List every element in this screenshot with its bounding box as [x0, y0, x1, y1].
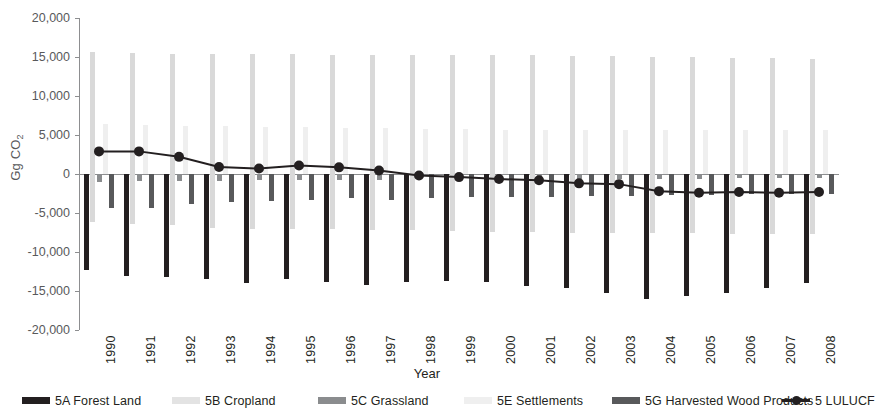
x-axis-tick-label-1991: 1991: [144, 335, 158, 364]
bar-cropland-1994: [250, 54, 255, 174]
bar-group-2006: [719, 18, 759, 330]
bar-settlements-2003: [623, 130, 628, 174]
x-axis-title: Year: [0, 366, 854, 381]
y-axis-tick-label: -20,000: [10, 323, 70, 337]
x-axis-tick-label-1993: 1993: [224, 335, 238, 364]
bar-group-1997: [359, 18, 399, 330]
bar-forest_land-1994: [244, 174, 249, 283]
chart-legend: 5A Forest Land5B Cropland5C Grassland5E …: [0, 390, 854, 411]
legend-item-2[interactable]: 5C Grassland: [318, 390, 429, 411]
bar-cropland-1999: [450, 55, 455, 174]
y-axis-tick-labels: 20,00015,00010,0005,0000-5,000-10,000-15…: [8, 0, 70, 411]
x-axis-tick-label-2008: 2008: [824, 335, 838, 364]
bar-settlements-1996: [343, 128, 348, 174]
x-axis-tick-label-2002: 2002: [584, 335, 598, 364]
bar-cropland-negative-2008: [810, 174, 815, 234]
x-axis-tick-label-2004: 2004: [664, 335, 678, 364]
bar-cropland-negative-2000: [490, 174, 495, 232]
legend-color-swatch-icon: [612, 397, 640, 404]
y-axis-tick-label: 5,000: [10, 128, 70, 142]
bar-cropland-2002: [570, 56, 575, 174]
bar-group-1993: [199, 18, 239, 330]
bar-cropland-1990: [90, 52, 95, 174]
bar-cropland-1997: [370, 55, 375, 174]
bar-cropland-1996: [330, 55, 335, 174]
bar-cropland-2000: [490, 55, 495, 174]
legend-item-1[interactable]: 5B Cropland: [172, 390, 276, 411]
legend-color-swatch-icon: [22, 397, 50, 404]
x-axis-tick-label-1999: 1999: [464, 335, 478, 364]
bar-group-2001: [519, 18, 559, 330]
bar-grassland-2004: [657, 174, 662, 179]
bar-settlements-1995: [303, 127, 308, 174]
bar-cropland-negative-2003: [610, 174, 615, 233]
bar-harvested_wood-1999: [469, 174, 474, 197]
y-axis-tick-label: -15,000: [10, 284, 70, 298]
x-axis-tick-label-1994: 1994: [264, 335, 278, 364]
bar-cropland-1995: [290, 54, 295, 174]
bar-cropland-negative-2007: [770, 174, 775, 234]
bar-group-1992: [159, 18, 199, 330]
bar-cropland-2003: [610, 56, 615, 174]
bar-group-2007: [759, 18, 799, 330]
bar-grassland-1995: [297, 174, 302, 180]
legend-label: 5B Cropland: [205, 394, 276, 408]
bar-cropland-negative-2004: [650, 174, 655, 233]
legend-item-0[interactable]: 5A Forest Land: [22, 390, 141, 411]
bar-grassland-2002: [577, 174, 582, 179]
bar-cropland-2006: [730, 58, 735, 174]
x-axis-tick-label-1996: 1996: [344, 335, 358, 364]
bar-forest_land-1997: [364, 174, 369, 285]
x-axis-tick-label-2005: 2005: [704, 335, 718, 364]
bar-grassland-2005: [697, 174, 702, 179]
bar-harvested_wood-2003: [629, 174, 634, 196]
bar-forest_land-1998: [404, 174, 409, 282]
bar-group-1995: [279, 18, 319, 330]
bar-grassland-1996: [337, 174, 342, 180]
legend-item-3[interactable]: 5E Settlements: [464, 390, 583, 411]
legend-color-swatch-icon: [318, 397, 346, 404]
bar-grassland-1991: [137, 174, 142, 181]
y-axis-tick-mark: [75, 330, 79, 331]
bar-cropland-negative-1996: [330, 174, 335, 229]
bar-forest_land-2000: [484, 174, 489, 282]
bar-group-1990: [79, 18, 119, 330]
bar-grassland-1997: [377, 174, 382, 180]
bar-cropland-1998: [410, 55, 415, 174]
bar-cropland-1991: [130, 53, 135, 174]
bar-cropland-2007: [770, 58, 775, 174]
bar-cropland-2004: [650, 57, 655, 174]
bar-harvested_wood-2000: [509, 174, 514, 197]
bar-cropland-negative-1994: [250, 174, 255, 229]
x-axis-tick-label-1995: 1995: [304, 335, 318, 364]
bar-settlements-1991: [143, 125, 148, 174]
bar-harvested_wood-1995: [309, 174, 314, 200]
bar-group-1994: [239, 18, 279, 330]
bar-grassland-1999: [457, 174, 462, 179]
bar-grassland-1992: [177, 174, 182, 181]
bar-grassland-1994: [257, 174, 262, 180]
bar-harvested_wood-1993: [229, 174, 234, 202]
bar-harvested_wood-2006: [749, 174, 754, 194]
bar-harvested_wood-1992: [189, 174, 194, 204]
bar-forest_land-2004: [644, 174, 649, 299]
bar-grassland-1998: [417, 174, 422, 179]
x-axis-tick-label-1997: 1997: [384, 335, 398, 364]
x-axis-tick-label-2000: 2000: [504, 335, 518, 364]
plot-area: [79, 18, 839, 330]
legend-color-swatch-icon: [172, 397, 200, 404]
legend-item-5[interactable]: 5 LULUCF: [782, 390, 875, 411]
legend-line-marker-icon: [782, 396, 810, 405]
bar-group-2002: [559, 18, 599, 330]
bar-forest_land-1995: [284, 174, 289, 279]
bar-group-1991: [119, 18, 159, 330]
y-axis-tick-label: 0: [10, 167, 70, 181]
bar-settlements-1994: [263, 127, 268, 174]
bar-cropland-negative-1990: [90, 174, 95, 222]
bar-forest_land-2007: [764, 174, 769, 288]
bar-forest_land-2002: [564, 174, 569, 288]
bar-grassland-2000: [497, 174, 502, 179]
bar-grassland-1990: [97, 174, 102, 182]
bar-harvested_wood-1990: [109, 174, 114, 208]
